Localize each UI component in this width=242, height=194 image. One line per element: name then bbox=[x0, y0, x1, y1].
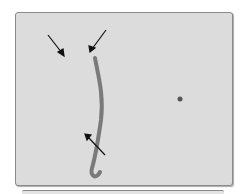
proteoglycan-diagram bbox=[0, 0, 242, 194]
top-view-core bbox=[178, 97, 183, 102]
core-protein-strand bbox=[92, 58, 102, 176]
chondroitin-arrow bbox=[92, 30, 106, 49]
core-protein-arrowhead bbox=[58, 49, 64, 56]
